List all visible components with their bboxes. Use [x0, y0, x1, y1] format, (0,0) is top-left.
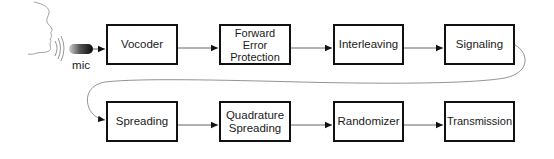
block-randomizer: Randomizer: [333, 101, 404, 142]
sound-waves-icon: [55, 36, 64, 61]
signal-chain-diagram: mic Vocoder Forward Error Protection Int…: [0, 0, 554, 159]
microphone-icon: [69, 44, 93, 54]
mic-label: mic: [70, 59, 92, 71]
block-interleaving: Interleaving: [333, 24, 404, 65]
face-profile-icon: [28, 2, 52, 54]
block-transmission: Transmission: [444, 101, 515, 142]
block-signaling: Signaling: [444, 24, 515, 65]
block-vocoder: Vocoder: [106, 24, 178, 65]
block-forward-error-protection: Forward Error Protection: [219, 24, 291, 65]
block-quadrature-spreading: Quadrature Spreading: [219, 101, 291, 142]
block-spreading: Spreading: [106, 101, 178, 142]
